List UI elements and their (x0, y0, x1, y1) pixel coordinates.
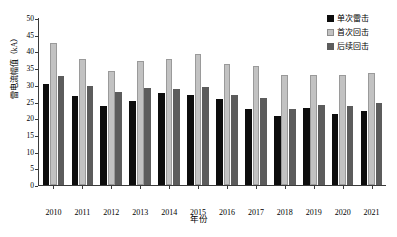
x-tick-mark (169, 186, 170, 189)
y-tick-label: 25 (4, 99, 34, 107)
y-tick-mark (35, 136, 38, 137)
y-tick-label: 45 (4, 32, 34, 40)
bar-2010-series1 (50, 43, 57, 185)
x-tick-mark (227, 186, 228, 189)
legend-swatch-icon (327, 43, 334, 50)
bar-group (100, 18, 122, 185)
legend-swatch-icon (327, 29, 334, 36)
legend-label: 后续回击 (337, 42, 369, 51)
y-tick-label: 35 (4, 65, 34, 73)
bar-2012-series1 (108, 71, 115, 185)
y-tick-label: 20 (4, 115, 34, 123)
x-tick-mark (140, 186, 141, 189)
bar-2020-series0 (332, 114, 339, 185)
bar-2021-series2 (376, 103, 383, 185)
legend-item-2: 后续回击 (327, 39, 393, 53)
bar-2011-series2 (87, 86, 94, 185)
bar-2010-series0 (43, 84, 50, 185)
y-tick-label: 40 (4, 48, 34, 56)
y-tick-label: 0 (4, 182, 34, 190)
bar-2010-series2 (58, 76, 65, 185)
y-tick-label: 5 (4, 165, 34, 173)
bar-2017-series2 (260, 98, 267, 186)
y-tick-label: 15 (4, 132, 34, 140)
bar-group (274, 18, 296, 185)
bar-2014-series0 (158, 93, 165, 185)
x-axis-title: 年份 (0, 214, 397, 224)
bar-2011-series0 (72, 96, 79, 185)
bar-2012-series0 (100, 106, 107, 185)
bar-2021-series0 (361, 111, 368, 185)
x-tick-mark (285, 186, 286, 189)
y-tick-mark (35, 19, 38, 20)
bar-2012-series2 (115, 92, 122, 185)
bar-2020-series2 (347, 106, 354, 185)
bar-group (216, 18, 238, 185)
bar-group (245, 18, 267, 185)
bar-2018-series2 (289, 109, 296, 185)
y-tick-mark (35, 153, 38, 154)
x-tick-mark (82, 186, 83, 189)
x-tick-mark (372, 186, 373, 189)
bar-2013-series1 (137, 61, 144, 185)
legend-label: 首次回击 (337, 28, 369, 37)
x-tick-mark (256, 186, 257, 189)
x-tick-mark (314, 186, 315, 189)
bar-2021-series1 (368, 73, 375, 185)
x-axis-line (38, 185, 386, 186)
x-tick-mark (53, 186, 54, 189)
bar-2011-series1 (79, 59, 86, 185)
legend-item-1: 首次回击 (327, 25, 393, 39)
y-tick-label: 30 (4, 82, 34, 90)
bar-group (72, 18, 94, 185)
y-tick-mark (35, 169, 38, 170)
y-tick-mark (35, 186, 38, 187)
legend-swatch-icon (327, 15, 334, 22)
bar-2015-series0 (187, 95, 194, 185)
bar-2019-series0 (303, 108, 310, 185)
y-tick-mark (35, 36, 38, 37)
legend: 单次雷击首次回击后续回击 (327, 11, 393, 53)
legend-label: 单次雷击 (337, 14, 369, 23)
bar-2013-series0 (129, 101, 136, 185)
bar-group (187, 18, 209, 185)
bar-2018-series0 (274, 116, 281, 185)
bar-2014-series1 (166, 59, 173, 185)
bar-2019-series1 (310, 75, 317, 185)
bar-2017-series0 (245, 109, 252, 185)
bar-2017-series1 (253, 66, 260, 185)
bar-group (158, 18, 180, 185)
bar-2015-series2 (202, 87, 209, 185)
y-tick-label: 10 (4, 149, 34, 157)
y-tick-mark (35, 103, 38, 104)
bar-chart: 雷电流幅值（kA） 05101520253035404550 201020112… (0, 0, 397, 237)
y-tick-label: 50 (4, 15, 34, 23)
x-tick-mark (198, 186, 199, 189)
bar-group (303, 18, 325, 185)
y-tick-mark (35, 69, 38, 70)
y-tick-mark (35, 119, 38, 120)
bar-2014-series2 (173, 89, 180, 185)
legend-item-0: 单次雷击 (327, 11, 393, 25)
bar-2016-series1 (224, 64, 231, 185)
y-tick-mark (35, 86, 38, 87)
bar-2013-series2 (144, 88, 151, 185)
bar-group (129, 18, 151, 185)
x-tick-mark (111, 186, 112, 189)
bar-2016-series0 (216, 99, 223, 186)
bar-2020-series1 (339, 75, 346, 185)
x-tick-mark (343, 186, 344, 189)
bar-2018-series1 (281, 75, 288, 185)
bar-2015-series1 (195, 54, 202, 185)
y-tick-mark (35, 52, 38, 53)
bar-2019-series2 (318, 105, 325, 185)
bar-group (43, 18, 65, 185)
bar-2016-series2 (231, 95, 238, 186)
